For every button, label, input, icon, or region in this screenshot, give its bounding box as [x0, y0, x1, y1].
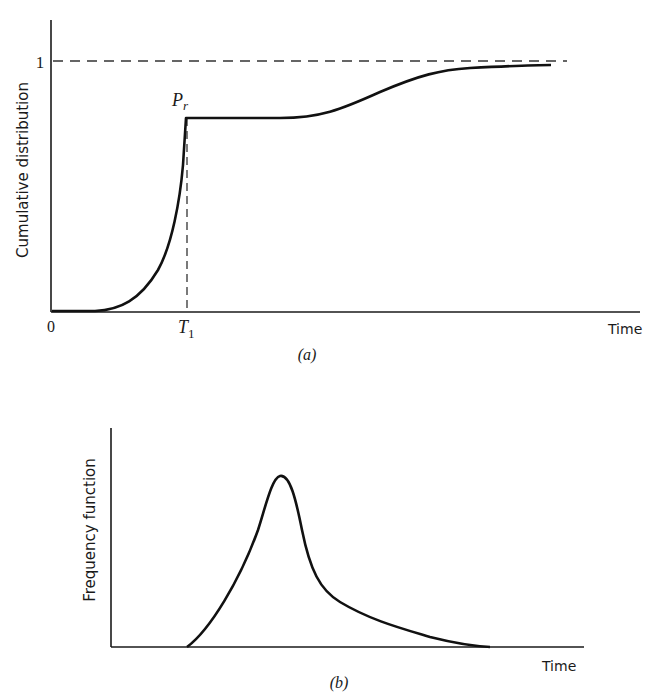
tick-label-one: 1	[36, 53, 45, 72]
tick-label-t1: T1	[178, 317, 195, 341]
x-axis-label-b: Time	[541, 658, 576, 674]
cumulative-curve	[52, 65, 551, 311]
y-axis-label-b: Frequency function	[81, 458, 99, 602]
x-axis-label-a: Time	[607, 321, 642, 337]
figure: Cumulative distribution 1 0 T1 Pr Time (…	[0, 0, 660, 693]
tick-label-zero: 0	[47, 318, 55, 335]
frequency-curve	[187, 476, 490, 647]
panel-b: Frequency function Time (b)	[81, 428, 584, 692]
caption-b: (b)	[330, 674, 349, 692]
y-axis-label-a: Cumulative distribution	[14, 82, 32, 258]
caption-a: (a)	[298, 346, 317, 364]
panel-a: Cumulative distribution 1 0 T1 Pr Time (…	[14, 20, 642, 364]
annotation-pr: Pr	[171, 90, 189, 113]
